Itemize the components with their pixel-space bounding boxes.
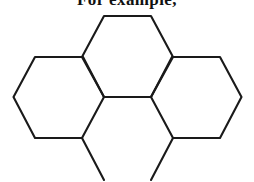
figure-caption-clip: For example, (0, 0, 254, 13)
hexagon-ring-diagram (0, 0, 254, 182)
figure-caption: For example, (0, 0, 254, 10)
figure-container: For example, (0, 0, 254, 182)
